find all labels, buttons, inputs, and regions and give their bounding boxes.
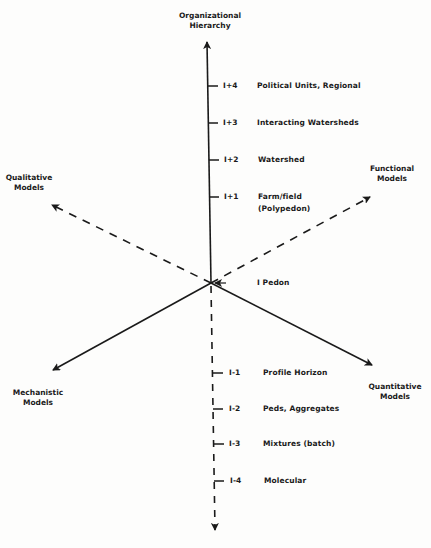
level-pedon: I Pedon [257,278,290,288]
level-code: I-2 [229,404,263,414]
title-line-1: Functional [364,164,420,174]
title-line-1: Qualitative [4,173,54,183]
level-label: Peds, Aggregates [263,404,339,413]
level-i-minus-2: I-2Peds, Aggregates [229,404,339,414]
title-line-2: Models [8,398,68,408]
qualitative-models-title: Qualitative Models [4,173,54,193]
level-code: I-4 [230,476,264,486]
lower-hierarchy-axis [211,286,215,530]
level-label: Farm/field [258,192,302,201]
level-label: Pedon [263,278,290,287]
title-line-2: Models [362,392,428,402]
level-label: Mixtures (batch) [263,439,335,448]
diagram-canvas: Organizational Hierarchy Functional Mode… [0,0,431,548]
axes-drawing [0,0,431,548]
organizational-hierarchy-axis [207,42,211,283]
quantitative-models-title: Quantitative Models [362,382,428,402]
level-i-plus-1-sublabel: (Polypedon) [258,204,310,214]
level-label: Molecular [264,476,306,485]
level-code: I+2 [224,155,258,165]
quantitative-models-axis [211,283,372,365]
title-line-1: Organizational [172,11,248,21]
mechanistic-models-axis [53,283,211,370]
level-code: I+4 [223,81,257,91]
level-code: I [257,278,260,287]
mechanistic-models-title: Mechanistic Models [8,388,68,408]
level-sublabel: (Polypedon) [258,204,310,213]
level-i-plus-3: I+3Interacting Watersheds [223,118,359,128]
level-i-plus-2: I+2Watershed [224,155,305,165]
level-label: Watershed [258,155,305,164]
level-label: Political Units, Regional [257,81,361,90]
functional-models-title: Functional Models [364,164,420,184]
level-i-minus-1: I-1Profile Horizon [229,368,328,378]
title-line-1: Quantitative [362,382,428,392]
level-code: I-1 [229,368,263,378]
level-i-minus-4: I-4Molecular [230,476,306,486]
title-line-2: Models [364,174,420,184]
organizational-hierarchy-title: Organizational Hierarchy [172,11,248,31]
title-line-1: Mechanistic [8,388,68,398]
title-line-2: Models [4,183,54,193]
level-label: Profile Horizon [263,368,328,377]
qualitative-models-axis [52,205,211,283]
level-label: Interacting Watersheds [257,118,359,127]
level-code: I-3 [229,439,263,449]
level-code: I+1 [224,192,258,202]
level-i-minus-3: I-3Mixtures (batch) [229,439,335,449]
level-code: I+3 [223,118,257,128]
title-line-2: Hierarchy [172,21,248,31]
level-i-plus-4: I+4Political Units, Regional [223,81,361,91]
level-i-plus-1: I+1Farm/field [224,192,302,202]
